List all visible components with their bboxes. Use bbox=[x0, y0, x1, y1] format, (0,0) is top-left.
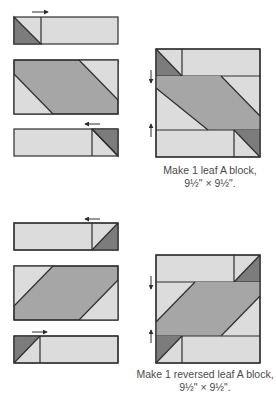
leaf-a-top-strip bbox=[14, 12, 118, 44]
leaf-a-caption-line1: Make 1 leaf A block, bbox=[150, 164, 270, 177]
leaf-a-center-rect bbox=[14, 60, 118, 114]
quilt-assembly-diagram bbox=[0, 0, 276, 398]
leaf-a-caption-size: 9½" × 9½". bbox=[150, 177, 270, 190]
reversed-leaf-a-bottom-strip bbox=[14, 332, 118, 363]
leaf-a-bottom-strip bbox=[14, 124, 118, 156]
reversed-leaf-a-center-rect bbox=[14, 266, 118, 320]
leaf-a-block bbox=[151, 49, 260, 157]
leaf-a-caption: Make 1 leaf A block, 9½" × 9½". bbox=[150, 164, 270, 190]
reversed-leaf-a-caption-line1: Make 1 reversed leaf A block, bbox=[134, 368, 276, 381]
reversed-leaf-a-caption-size: 9½" × 9½". bbox=[134, 381, 276, 394]
reversed-leaf-a-block bbox=[151, 255, 260, 363]
reversed-leaf-a-top-strip bbox=[14, 219, 118, 250]
reversed-leaf-a-caption: Make 1 reversed leaf A block, 9½" × 9½". bbox=[134, 368, 276, 394]
